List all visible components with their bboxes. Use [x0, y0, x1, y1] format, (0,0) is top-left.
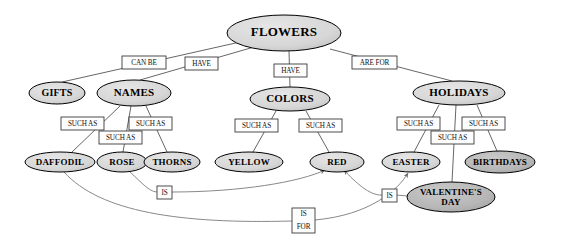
- concept-map-svg: CAN BEHAVEHAVEARE FORSUCH ASSUCH ASSUCH …: [0, 0, 564, 248]
- node-holidays[interactable]: HOLIDAYS: [413, 81, 505, 105]
- edge-label-such-as-7: SUCH AS: [431, 131, 474, 144]
- node-colors[interactable]: COLORS: [250, 87, 330, 111]
- node-gifts[interactable]: GIFTS: [29, 82, 85, 104]
- edge-label-text: SUCH AS: [136, 120, 165, 128]
- edge-label-text: SUCH AS: [469, 120, 498, 128]
- edge-label-are-for: ARE FOR: [352, 56, 397, 69]
- node-birthdays[interactable]: BIRTHDAYS: [465, 151, 535, 173]
- node-label: EASTER: [392, 157, 430, 167]
- edge-label-text: SUCH AS: [404, 120, 433, 128]
- edge-label-such-as-4: SUCH AS: [235, 119, 278, 132]
- edge-label-have-names: HAVE: [185, 57, 218, 70]
- node-label: DAFFODIL: [36, 157, 85, 167]
- node-yellow[interactable]: YELLOW: [215, 152, 283, 172]
- edge-label-text: SUCH AS: [106, 134, 135, 142]
- node-valentines[interactable]: VALENTINE'SDAY: [407, 182, 495, 212]
- node-label: COLORS: [266, 92, 314, 104]
- edge-label-such-as-3: SUCH AS: [129, 117, 172, 130]
- edge-label-such-as-5: SUCH AS: [299, 119, 342, 132]
- edge-daffodil-isfor-easter: [64, 172, 408, 221]
- node-red[interactable]: RED: [310, 152, 364, 172]
- node-rose[interactable]: ROSE: [97, 152, 147, 172]
- edge-label-text: FOR: [297, 223, 311, 231]
- node-names[interactable]: NAMES: [97, 80, 171, 106]
- edge-label-can-be: CAN BE: [122, 56, 166, 69]
- edge-label-text: IS: [386, 192, 392, 200]
- edge-label-is-valent: IS: [382, 189, 397, 202]
- node-label: RED: [327, 157, 347, 167]
- edge-label-text: HAVE: [192, 60, 211, 68]
- edge-label-text: HAVE: [281, 67, 300, 75]
- edge-label-such-as-2: SUCH AS: [99, 131, 142, 144]
- edge-label-such-as-1: SUCH AS: [61, 117, 104, 130]
- edge-label-text: ARE FOR: [360, 59, 390, 67]
- node-label: VALENTINE'S: [420, 187, 482, 197]
- node-easter[interactable]: EASTER: [382, 152, 440, 172]
- node-label: YELLOW: [228, 157, 270, 167]
- edge-label-text: IS: [300, 210, 306, 218]
- node-label: NAMES: [114, 86, 155, 98]
- edge-label-text: CAN BE: [131, 59, 157, 67]
- edge-label-text: SUCH AS: [438, 134, 467, 142]
- edge-label-text: SUCH AS: [242, 122, 271, 130]
- node-label: HOLIDAYS: [429, 86, 488, 98]
- edge-label-text: IS: [161, 189, 167, 197]
- node-daffodil[interactable]: DAFFODIL: [25, 152, 95, 172]
- node-label: THORNS: [152, 157, 191, 167]
- node-label: DAY: [441, 197, 461, 207]
- edge-label-text: SUCH AS: [68, 120, 97, 128]
- node-thorns[interactable]: THORNS: [144, 152, 200, 172]
- edge-label-such-as-6: SUCH AS: [397, 117, 440, 130]
- edge-label-is-rose: IS: [157, 186, 172, 199]
- edge-label-have-colors: HAVE: [274, 64, 307, 77]
- edge-valentines-is-red: [344, 170, 408, 196]
- node-flowers[interactable]: FLOWERS: [227, 15, 341, 51]
- edge-label-is-for: ISFOR: [292, 208, 315, 233]
- node-label: BIRTHDAYS: [473, 157, 527, 167]
- concept-map-canvas: CAN BEHAVEHAVEARE FORSUCH ASSUCH ASSUCH …: [0, 0, 564, 248]
- node-label: ROSE: [109, 157, 134, 167]
- node-label: GIFTS: [41, 87, 72, 98]
- nodes-layer: FLOWERSGIFTSNAMESCOLORSHOLIDAYSDAFFODILR…: [25, 15, 535, 212]
- edge-label-such-as-8: SUCH AS: [462, 117, 505, 130]
- node-label: FLOWERS: [251, 24, 317, 39]
- edge-label-text: SUCH AS: [306, 122, 335, 130]
